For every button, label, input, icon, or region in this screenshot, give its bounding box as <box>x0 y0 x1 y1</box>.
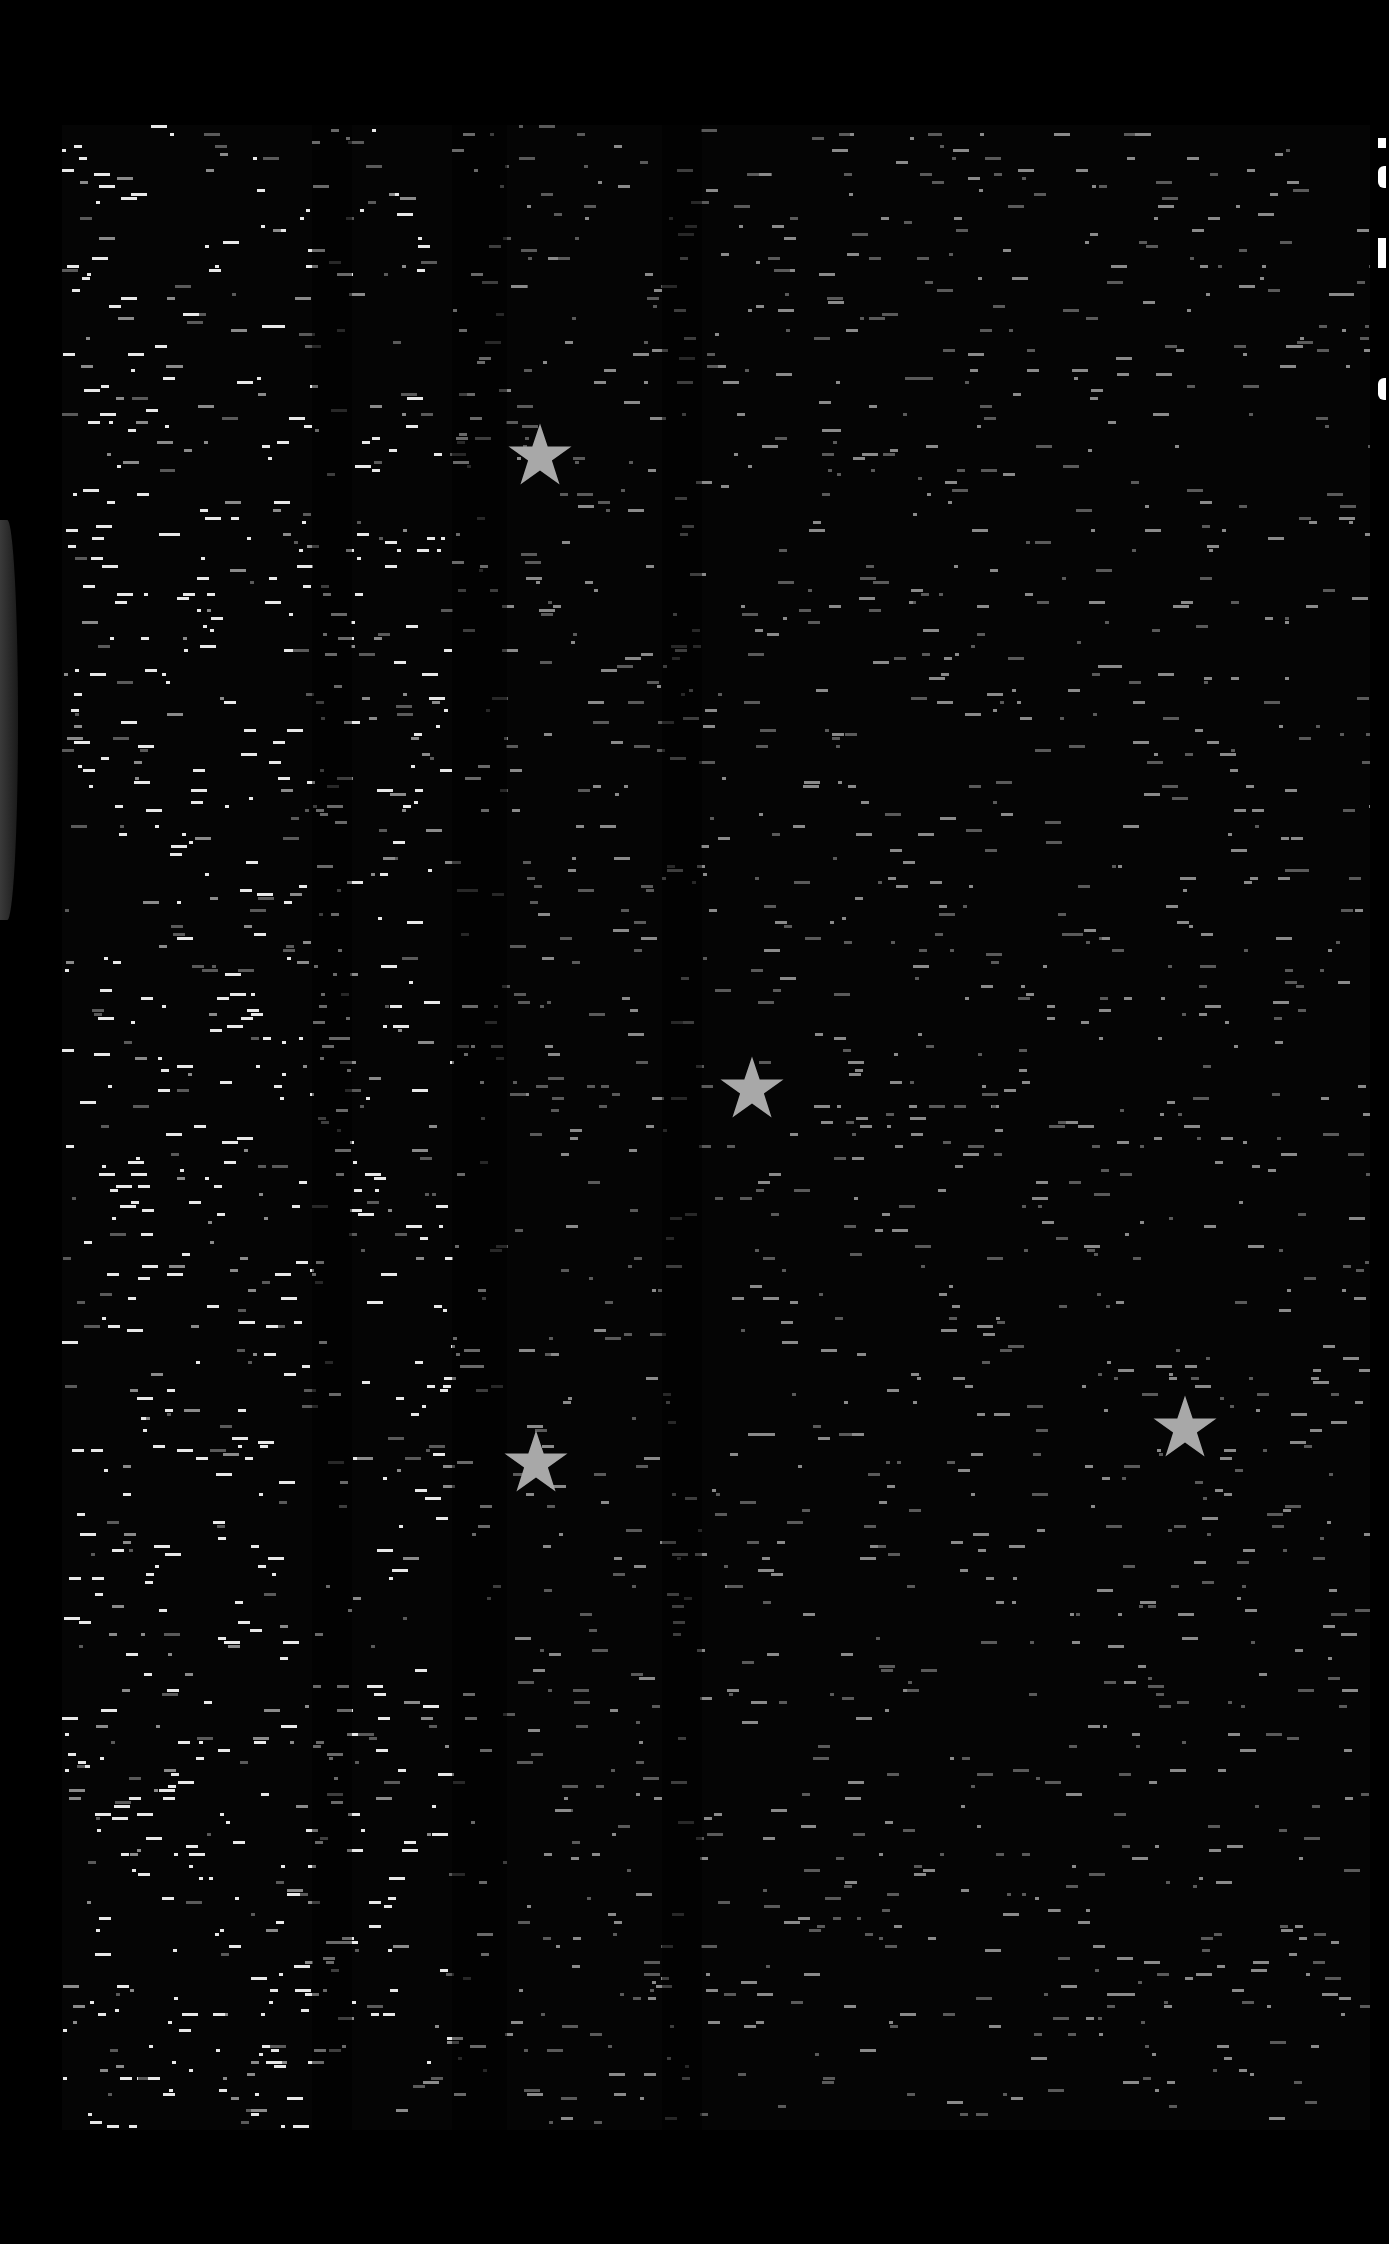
star-icon <box>501 1427 571 1497</box>
left-edge-sheen <box>0 520 18 920</box>
star-icon <box>505 420 575 490</box>
cropped-edge-text <box>1378 130 1389 400</box>
star-icon <box>1150 1392 1220 1462</box>
noise-texture-panel <box>62 125 1370 2130</box>
star-icon <box>717 1053 787 1123</box>
noise-texture <box>62 125 1370 2130</box>
